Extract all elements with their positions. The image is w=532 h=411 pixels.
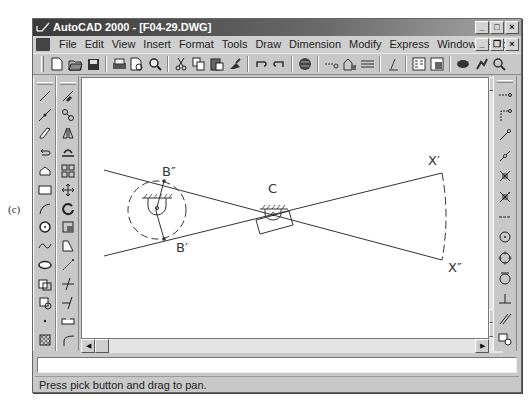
toolbar-grip[interactable] xyxy=(497,80,513,83)
zoom-window-icon[interactable] xyxy=(491,56,507,72)
menu-tools[interactable]: Tools xyxy=(218,36,252,53)
fillet-icon[interactable] xyxy=(59,332,77,348)
insert-block-icon[interactable] xyxy=(36,276,54,292)
redo-icon[interactable] xyxy=(271,56,287,72)
draw-toolbar xyxy=(33,76,56,351)
title-bar[interactable]: AutoCAD 2000 - [F04-29.DWG] _ □ × xyxy=(33,19,521,36)
copy-object-icon[interactable] xyxy=(59,107,77,123)
command-line-input[interactable] xyxy=(37,357,517,373)
object-tracking-icon[interactable] xyxy=(341,56,357,72)
toolbar-grip[interactable] xyxy=(41,56,44,72)
ucs-icon[interactable] xyxy=(359,56,375,72)
spline-icon[interactable] xyxy=(36,238,54,254)
snap-parallel-icon[interactable] xyxy=(496,310,514,327)
ellipse-icon[interactable] xyxy=(36,257,54,273)
drawing-area[interactable]: B″ B′ C X′ X″ xyxy=(81,77,489,339)
snap-quadrant-icon[interactable] xyxy=(496,249,514,266)
trim-icon[interactable] xyxy=(59,276,77,292)
open-icon[interactable] xyxy=(67,56,83,72)
menu-modify[interactable]: Modify xyxy=(345,36,385,53)
erase-icon[interactable] xyxy=(59,88,77,104)
menu-bar: File Edit View Insert Format Tools Draw … xyxy=(33,36,521,53)
menu-view[interactable]: View xyxy=(108,36,140,53)
polygon-icon[interactable] xyxy=(36,144,54,160)
snap-extension-icon[interactable] xyxy=(496,208,514,225)
menu-format[interactable]: Format xyxy=(175,36,218,53)
label-b-prime: B′ xyxy=(176,240,188,255)
extend-icon[interactable] xyxy=(59,295,77,311)
snap-intersection-icon[interactable] xyxy=(496,168,514,185)
arc-icon[interactable] xyxy=(36,182,54,198)
menu-draw[interactable]: Draw xyxy=(251,36,285,53)
print-icon[interactable] xyxy=(111,56,127,72)
horizontal-scrollbar[interactable]: ◀ ▶ xyxy=(81,339,503,353)
toolbar-separator xyxy=(105,56,107,72)
menu-express[interactable]: Express xyxy=(385,36,433,53)
new-icon[interactable] xyxy=(49,56,65,72)
break-icon[interactable] xyxy=(59,313,77,329)
close-button[interactable]: × xyxy=(505,21,519,34)
menu-window[interactable]: Window xyxy=(433,36,480,53)
hatch-icon[interactable] xyxy=(36,332,54,348)
scroll-thumb-horizontal[interactable] xyxy=(95,339,109,353)
polyline-icon[interactable] xyxy=(36,125,54,141)
web-browser-icon[interactable] xyxy=(297,56,313,72)
paste-icon[interactable] xyxy=(209,56,225,72)
menu-dimension[interactable]: Dimension xyxy=(285,36,345,53)
undo-icon[interactable] xyxy=(253,56,269,72)
menu-edit[interactable]: Edit xyxy=(81,36,108,53)
pan-icon[interactable] xyxy=(455,56,471,72)
snap-apparent-intersection-icon[interactable] xyxy=(496,188,514,205)
stretch-icon[interactable] xyxy=(59,238,77,254)
mirror-icon[interactable] xyxy=(59,125,77,141)
label-x-double-prime: X″ xyxy=(448,260,462,275)
cut-icon[interactable] xyxy=(173,56,189,72)
rotate-icon[interactable] xyxy=(59,201,77,217)
rectangle-icon[interactable] xyxy=(36,163,54,179)
lengthen-icon[interactable] xyxy=(59,257,77,273)
menu-insert[interactable]: Insert xyxy=(139,36,175,53)
snap-center-icon[interactable] xyxy=(496,229,514,246)
status-bar: Press pick button and drag to pan. xyxy=(35,376,519,392)
doc-minimize-button[interactable]: _ xyxy=(475,38,489,51)
snap-from-icon[interactable] xyxy=(496,106,514,123)
document-icon[interactable] xyxy=(36,38,50,51)
maximize-button[interactable]: □ xyxy=(490,21,504,34)
save-icon[interactable] xyxy=(85,56,101,72)
snap-midpoint-icon[interactable] xyxy=(496,147,514,164)
snap-from-icon[interactable] xyxy=(323,56,339,72)
snap-endpoint-icon[interactable] xyxy=(496,127,514,144)
match-properties-icon[interactable] xyxy=(227,56,243,72)
offset-icon[interactable] xyxy=(59,144,77,160)
zoom-realtime-icon[interactable] xyxy=(473,56,489,72)
find-icon[interactable] xyxy=(147,56,163,72)
copy-icon[interactable] xyxy=(191,56,207,72)
construction-line-icon[interactable] xyxy=(36,107,54,123)
snap-tangent-icon[interactable] xyxy=(496,269,514,286)
scroll-left-button[interactable]: ◀ xyxy=(81,339,95,353)
line-icon[interactable] xyxy=(36,88,54,104)
toolbar-grip[interactable] xyxy=(37,82,53,85)
temp-tracking-icon[interactable] xyxy=(496,86,514,103)
modify-toolbar xyxy=(56,76,79,351)
print-preview-icon[interactable] xyxy=(129,56,145,72)
scale-icon[interactable] xyxy=(59,219,77,235)
distance-icon[interactable] xyxy=(385,56,401,72)
array-icon[interactable] xyxy=(59,163,77,179)
design-center-icon[interactable] xyxy=(429,56,445,72)
make-block-icon[interactable] xyxy=(36,295,54,311)
menu-file[interactable]: File xyxy=(55,36,81,53)
point-icon[interactable] xyxy=(36,313,54,329)
circle-arc-icon[interactable] xyxy=(36,201,54,217)
move-icon[interactable] xyxy=(59,182,77,198)
doc-close-button[interactable]: × xyxy=(505,38,519,51)
minimize-button[interactable]: _ xyxy=(475,21,489,34)
doc-restore-button[interactable]: ❐ xyxy=(490,38,504,51)
circle-icon[interactable] xyxy=(36,219,54,235)
snap-perpendicular-icon[interactable] xyxy=(496,290,514,307)
toolbar-separator xyxy=(167,56,169,72)
properties-icon[interactable] xyxy=(411,56,427,72)
toolbar-grip[interactable] xyxy=(60,82,76,85)
scroll-right-button[interactable]: ▶ xyxy=(475,339,489,353)
snap-insert-icon[interactable] xyxy=(496,331,514,348)
